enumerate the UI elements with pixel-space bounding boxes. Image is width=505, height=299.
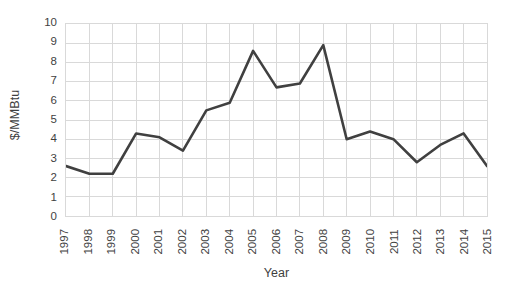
y-axis-tick-label: 10 — [44, 17, 57, 29]
y-axis-tick-labels: 012345678910 — [30, 23, 61, 217]
y-axis-tick-label: 2 — [51, 172, 57, 184]
x-axis-tick-labels: 1997199819992000200120022003200420052006… — [65, 218, 488, 266]
y-axis-tick-label: 7 — [51, 75, 57, 87]
x-axis-title: Year — [65, 266, 488, 280]
y-axis-tick-label: 3 — [51, 153, 57, 165]
plot-area — [65, 23, 488, 217]
y-axis-tick-label: 6 — [51, 95, 57, 107]
y-axis-title-label: $/MMBtu — [8, 90, 22, 141]
y-axis-tick-label: 5 — [51, 114, 57, 126]
plot-svg — [66, 24, 487, 216]
y-axis-tick-label: 8 — [51, 56, 57, 68]
y-axis-tick-label: 1 — [51, 192, 57, 204]
x-axis-tick-label: 2015 — [466, 220, 505, 264]
y-axis-tick-label: 9 — [51, 37, 57, 49]
line-chart-figure: $/MMBtu 012345678910 1997199819992000200… — [0, 0, 505, 299]
y-axis-tick-label: 4 — [51, 134, 57, 146]
x-axis-tick-text: 2015 — [482, 229, 494, 255]
y-axis-title: $/MMBtu — [0, 0, 30, 230]
